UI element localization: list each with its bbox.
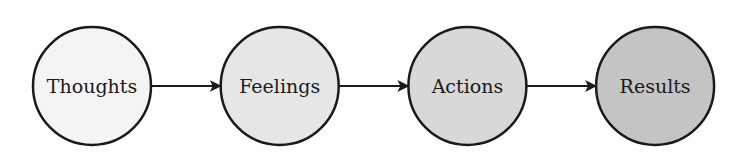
- node-thoughts: Thoughts: [33, 27, 151, 145]
- flow-diagram: ThoughtsFeelingsActionsResults: [0, 0, 744, 153]
- node-results: Results: [596, 27, 714, 145]
- node-label: Thoughts: [47, 75, 137, 97]
- node-label: Feelings: [239, 75, 320, 97]
- node-actions: Actions: [408, 27, 526, 145]
- node-feelings: Feelings: [221, 27, 339, 145]
- node-label: Results: [620, 75, 691, 97]
- node-label: Actions: [431, 75, 504, 97]
